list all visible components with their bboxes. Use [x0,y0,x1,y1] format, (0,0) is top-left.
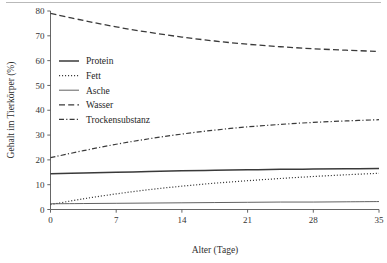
legend-label-asche: Asche [86,86,110,96]
y-tick-label: 30 [36,130,46,140]
y-tick-label: 70 [36,31,46,41]
chart-legend: ProteinFettAscheWasserTrockensubstanz [59,56,150,124]
series-line-protein [51,169,380,174]
y-axis-ticks: 01020304050607080 [36,6,51,215]
x-tick-label: 35 [375,215,385,225]
y-tick-label: 20 [36,155,46,165]
series-line-wasser [51,13,380,51]
x-tick-label: 21 [243,215,252,225]
x-axis-label: Alter (Tage) [192,245,239,256]
y-tick-label: 50 [36,81,46,91]
y-tick-label: 10 [36,180,46,190]
legend-label-trockensubstanz: Trockensubstanz [86,115,150,125]
chart-plot: 01020304050607080 0714212835 Gehalt im T… [0,0,387,263]
legend-label-wasser: Wasser [86,100,114,110]
y-tick-label: 40 [36,105,46,115]
x-tick-label: 7 [114,215,119,225]
series-line-trockensubstanz [51,120,380,158]
figure-canvas: 01020304050607080 0714212835 Gehalt im T… [0,0,387,263]
y-tick-label: 60 [36,56,46,66]
x-tick-label: 28 [309,215,319,225]
series-line-fett [51,173,380,204]
y-axis-label: Gehalt im Tierkörper (%) [6,62,17,159]
series-line-asche [51,202,380,204]
y-tick-label: 80 [36,6,46,16]
legend-label-protein: Protein [86,56,114,66]
x-axis-ticks: 0714212835 [48,210,384,226]
x-tick-label: 0 [48,215,53,225]
legend-label-fett: Fett [86,71,101,81]
x-tick-label: 14 [177,215,187,225]
y-tick-label: 0 [40,205,45,215]
